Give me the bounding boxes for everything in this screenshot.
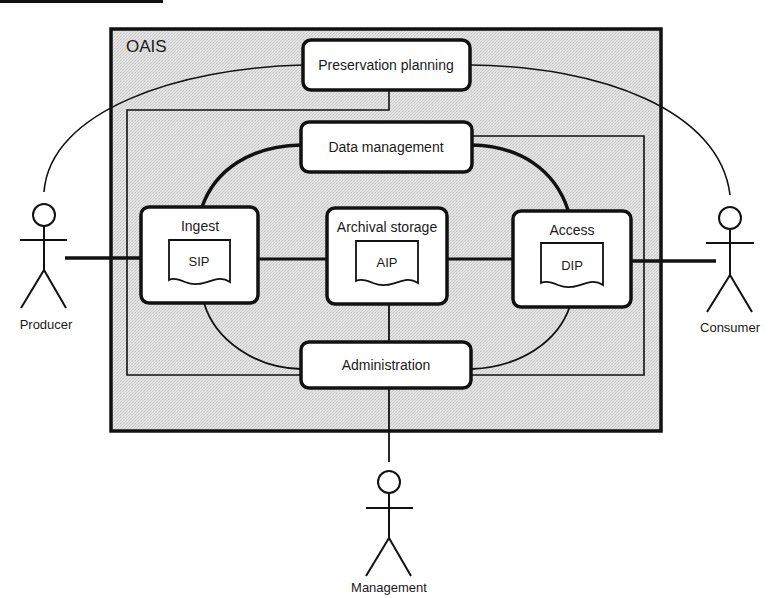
access-label: Access xyxy=(549,222,594,238)
archival-storage-label: Archival storage xyxy=(337,219,438,235)
producer-actor[interactable]: Producer xyxy=(20,204,73,332)
archival-storage-box[interactable]: Archival storage AIP xyxy=(327,208,447,304)
oais-title: OAIS xyxy=(126,37,167,56)
data-management-box[interactable]: Data management xyxy=(301,122,472,172)
dip-label: DIP xyxy=(561,258,583,273)
sip-label: SIP xyxy=(189,254,210,269)
data-management-label: Data management xyxy=(328,139,443,155)
producer-label: Producer xyxy=(20,317,73,332)
aip-label: AIP xyxy=(377,255,398,270)
producer-stick-figure-icon xyxy=(20,204,67,308)
preservation-planning-box[interactable]: Preservation planning xyxy=(303,40,470,90)
ingest-label: Ingest xyxy=(181,218,219,234)
management-label: Management xyxy=(351,580,427,595)
preservation-planning-label: Preservation planning xyxy=(318,57,453,73)
consumer-label: Consumer xyxy=(700,320,761,335)
administration-label: Administration xyxy=(342,357,431,373)
access-box[interactable]: Access DIP xyxy=(513,211,631,307)
oais-diagram: OAIS Preservation planning Data manageme… xyxy=(0,0,777,598)
header-bar xyxy=(0,0,163,3)
management-stick-figure-icon xyxy=(366,471,413,576)
management-actor[interactable]: Management xyxy=(351,471,427,595)
consumer-actor[interactable]: Consumer xyxy=(700,207,761,335)
ingest-box[interactable]: Ingest SIP xyxy=(141,207,258,303)
administration-box[interactable]: Administration xyxy=(301,342,471,388)
